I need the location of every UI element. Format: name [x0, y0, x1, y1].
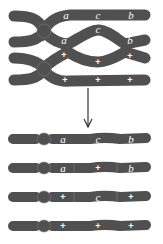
gene-label: + — [61, 50, 66, 60]
chromatid-before-4 — [14, 70, 145, 81]
centromere-1 — [37, 24, 51, 38]
centromere — [38, 162, 51, 174]
chromatid-before-2 — [14, 30, 145, 44]
gene-label: + — [60, 221, 65, 231]
gene-label: + — [60, 192, 65, 202]
gene-label: a — [60, 162, 66, 174]
gene-label: b — [127, 34, 133, 46]
gene-label: + — [95, 163, 100, 173]
chromatid-before-1 — [14, 15, 145, 30]
centromere-2 — [37, 62, 51, 76]
chromatid-body — [13, 225, 146, 226]
chromatid-after-2: a+b — [13, 162, 146, 174]
gene-label: + — [95, 221, 100, 231]
gene-label: + — [127, 75, 132, 85]
gene-label: + — [127, 51, 132, 61]
gene-label: b — [128, 9, 134, 21]
down-arrow-icon — [84, 88, 92, 127]
chromatid-after-4: +++ — [13, 220, 146, 232]
centromere — [38, 133, 51, 145]
gene-label: b — [128, 162, 134, 174]
gene-label: c — [96, 9, 101, 21]
gene-label: + — [62, 75, 67, 85]
before-group: a c b a c b + + + + + + — [14, 9, 145, 85]
gene-label: + — [95, 75, 100, 85]
gene-label: c — [96, 133, 101, 145]
chromatid-after-3: +c+ — [13, 191, 146, 203]
after-group: acba+b+c++++ — [13, 133, 146, 232]
gene-label: a — [61, 34, 67, 46]
crossover-diagram: a c b a c b + + + + + + acba+b+c++++ — [0, 0, 163, 244]
gene-label: b — [128, 133, 134, 145]
gene-label: a — [60, 133, 66, 145]
gene-label: + — [128, 192, 133, 202]
chromatid-before-3 — [14, 52, 145, 68]
gene-label: + — [128, 221, 133, 231]
chromatid-body — [13, 167, 146, 168]
chromatid-body — [13, 196, 146, 197]
centromere — [38, 191, 51, 203]
gene-label: + — [95, 57, 100, 67]
chromatid-after-1: acb — [13, 133, 146, 145]
chromatid-body — [13, 138, 146, 139]
gene-label: a — [63, 9, 69, 21]
gene-label: c — [96, 191, 101, 203]
gene-label: c — [96, 23, 101, 35]
centromere — [38, 220, 51, 232]
